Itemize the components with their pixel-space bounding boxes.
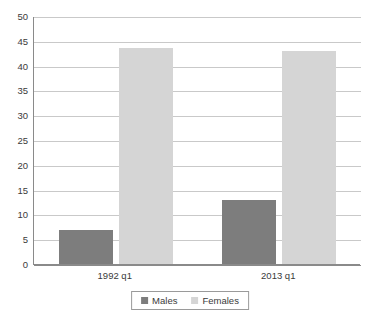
bar-males-1992-q1 [59, 230, 113, 264]
y-tick-label: 25 [4, 136, 28, 146]
bar-chart: 05101520253035404550 1992 q12013 q1 Male… [0, 0, 380, 317]
y-tick-label: 50 [4, 12, 28, 22]
y-tick-label: 10 [4, 210, 28, 220]
legend-swatch-icon [141, 297, 148, 304]
bar-females-1992-q1 [119, 48, 173, 264]
legend-label: Males [152, 295, 177, 306]
y-tick-label: 45 [4, 37, 28, 47]
y-tick-label: 35 [4, 86, 28, 96]
legend: MalesFemales [131, 291, 249, 310]
x-tick-label: 1992 q1 [75, 270, 155, 282]
y-tick-label: 40 [4, 62, 28, 72]
legend-item-females[interactable]: Females [191, 295, 238, 306]
gridline-45 [34, 42, 361, 43]
bar-females-2013-q1 [282, 51, 336, 264]
x-tick-label: 2013 q1 [238, 270, 318, 282]
legend-item-males[interactable]: Males [141, 295, 177, 306]
legend-swatch-icon [191, 297, 198, 304]
gridline-0 [34, 265, 361, 266]
y-tick-label: 5 [4, 235, 28, 245]
gridline-50 [34, 17, 361, 18]
legend-label: Females [202, 295, 238, 306]
y-axis: 05101520253035404550 [0, 0, 28, 317]
plot-area [33, 17, 360, 265]
y-tick-label: 15 [4, 186, 28, 196]
bar-males-2013-q1 [222, 200, 276, 264]
y-tick-label: 20 [4, 161, 28, 171]
y-tick-label: 30 [4, 111, 28, 121]
y-tick-label: 0 [4, 260, 28, 270]
